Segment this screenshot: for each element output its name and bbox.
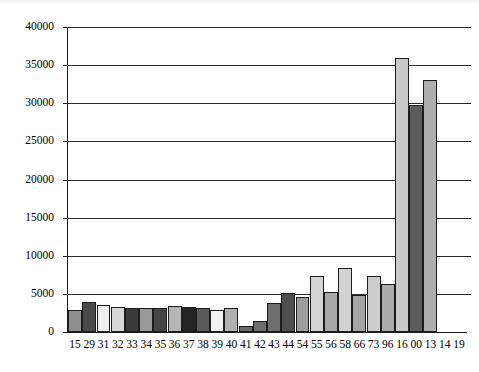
- y-tick-label-25000: 25000: [25, 135, 54, 147]
- bar-56: [324, 292, 338, 332]
- scan-artifact: [0, 0, 479, 5]
- bar-31: [97, 305, 111, 332]
- bar-58: [338, 268, 352, 332]
- bar-32: [111, 307, 125, 332]
- bar-66: [352, 295, 366, 332]
- bar-38: [196, 308, 210, 332]
- y-tick-label-15000: 15000: [25, 212, 54, 224]
- bar-29: [82, 302, 96, 332]
- bar-15: [68, 310, 82, 332]
- y-tick-label-5000: 5000: [31, 288, 54, 300]
- bar-13: [423, 80, 437, 332]
- y-tick-label-10000: 10000: [25, 250, 54, 262]
- y-tick-label-40000: 40000: [25, 21, 54, 33]
- bar-73: [367, 276, 381, 332]
- x-tick-label-27: 19: [448, 338, 470, 351]
- bar-41: [239, 326, 253, 332]
- y-tick-label-35000: 35000: [25, 59, 54, 71]
- y-tick-label-30000: 30000: [25, 97, 54, 109]
- bar-39: [210, 310, 224, 332]
- tick-right-10000: [466, 256, 471, 257]
- bar-54: [296, 297, 310, 332]
- bar-96: [381, 284, 395, 332]
- bar-16: [395, 58, 409, 333]
- y-tick-label-0: 0: [48, 326, 54, 338]
- bar-43: [267, 303, 281, 332]
- bar-00: [409, 105, 423, 332]
- bar-40: [224, 308, 238, 332]
- tick-right-30000: [466, 103, 471, 104]
- tick-left-0: [63, 332, 68, 333]
- bar-34: [139, 308, 153, 332]
- bar-37: [182, 307, 196, 332]
- tick-right-35000: [466, 65, 471, 66]
- x-axis-line: [67, 332, 467, 333]
- bar-35: [153, 308, 167, 332]
- tick-right-25000: [466, 141, 471, 142]
- tick-right-20000: [466, 180, 471, 181]
- tick-right-40000: [466, 27, 471, 28]
- tick-right-5000: [466, 294, 471, 295]
- bar-33: [125, 308, 139, 332]
- bar-chart: 0500010000150002000025000300003500040000…: [0, 0, 479, 372]
- y-axis-labels: 0500010000150002000025000300003500040000: [0, 0, 62, 372]
- bar-42: [253, 321, 267, 332]
- bar-44: [281, 293, 295, 332]
- tick-right-15000: [466, 218, 471, 219]
- bar-36: [168, 306, 182, 332]
- x-axis-labels: 1529313233343536373839404142434454555658…: [68, 338, 466, 358]
- bars-layer: [68, 27, 466, 332]
- bar-55: [310, 276, 324, 332]
- y-tick-label-20000: 20000: [25, 174, 54, 186]
